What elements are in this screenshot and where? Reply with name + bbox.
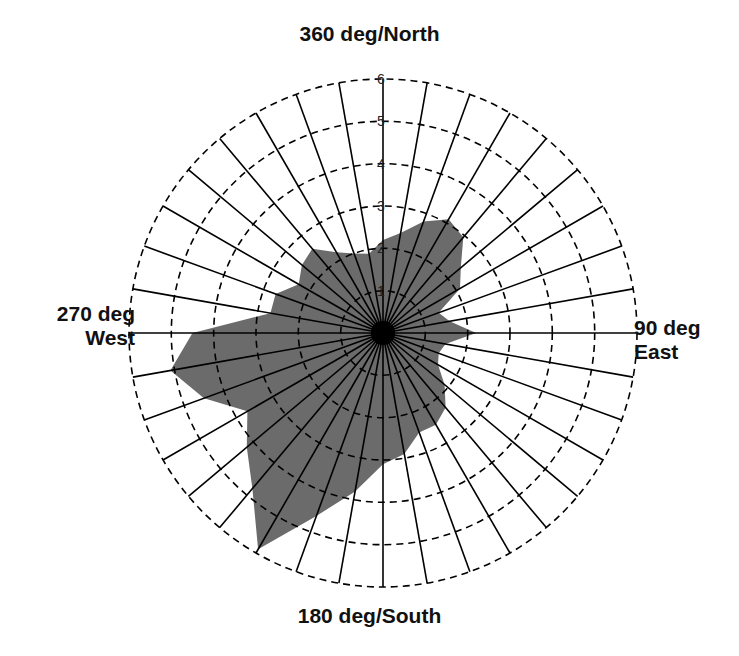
radial-tick-label: 4 [377, 156, 385, 172]
radial-tick-label: 2 [377, 240, 385, 256]
radial-tick-label: 3 [377, 198, 385, 214]
west-label: 270 deg West [40, 302, 135, 350]
radial-tick-label: 6 [377, 71, 385, 87]
south-label: 180 deg/South [0, 604, 739, 628]
west-label-degrees: 270 deg [40, 302, 135, 326]
north-label: 360 deg/North [0, 22, 739, 46]
polar-chart: 123456 360 deg/North 180 deg/South 270 d… [0, 0, 739, 656]
data-polygon [170, 219, 476, 549]
series-area [170, 219, 476, 549]
radial-tick-label: 1 [377, 283, 385, 299]
radial-tick-label: 5 [377, 113, 385, 129]
west-label-name: West [40, 326, 135, 350]
east-label-name: East [634, 340, 734, 364]
east-label: 90 deg East [634, 316, 734, 364]
center-hub [371, 321, 395, 345]
east-label-degrees: 90 deg [634, 316, 734, 340]
